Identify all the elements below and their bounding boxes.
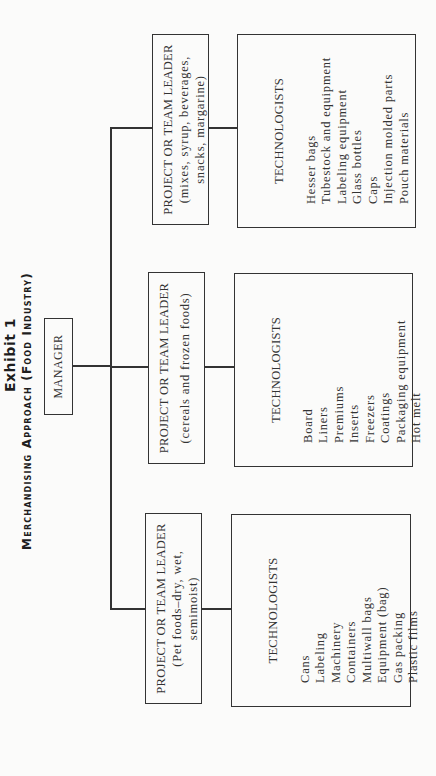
exhibit-title: Exhibit 1 xyxy=(2,255,18,455)
list-item: Freezers xyxy=(363,274,379,443)
list-item: Premiums xyxy=(332,274,348,443)
technologists-list: Hesser bags Tubestock and equipment Labe… xyxy=(304,35,413,227)
manager-label: MANAGER xyxy=(51,334,66,398)
list-item: Equipment (bag) xyxy=(375,515,391,683)
list-item: Multiwall bags xyxy=(360,515,376,683)
team-leader-desc: (Pet foods–dry, wet, xyxy=(169,514,185,703)
technologists-box-cereals: TECHNOLOGISTS Board Liners Premiums Inse… xyxy=(234,273,413,467)
team-leader-box-mixes: PROJECT OR TEAM LEADER (mixes, syrup, be… xyxy=(152,34,209,225)
technologists-box-mixes: TECHNOLOGISTS Hesser bags Tubestock and … xyxy=(237,34,416,228)
connector-trunk xyxy=(110,128,112,610)
list-item: Liners xyxy=(316,274,332,443)
team-leader-role: PROJECT OR TEAM LEADER xyxy=(160,35,176,224)
technologists-header: TECHNOLOGISTS xyxy=(269,274,285,466)
team-leader-role: PROJECT OR TEAM LEADER xyxy=(156,273,172,463)
connector-middle-drop xyxy=(110,367,148,369)
technologists-header: TECHNOLOGISTS xyxy=(272,35,288,227)
list-item: Tubestock and equipment xyxy=(319,35,335,204)
manager-box: MANAGER xyxy=(44,318,73,415)
list-item: Plastic films xyxy=(406,515,422,683)
list-item: Containers xyxy=(344,515,360,683)
team-leader-desc: (cereals and frozen foods) xyxy=(177,273,193,463)
list-item: Board xyxy=(301,274,317,443)
chart-subtitle: Merchandising Approach (Food Industry) xyxy=(20,211,34,611)
connector-manager-down xyxy=(73,366,111,368)
connector-right-tech xyxy=(209,128,237,130)
list-item: Hesser bags xyxy=(304,35,320,204)
team-leader-desc: (mixes, syrup, beverages, xyxy=(176,35,192,224)
list-item: Packaging equipment xyxy=(394,274,410,443)
connector-middle-tech xyxy=(205,367,234,369)
list-item: Inserts xyxy=(347,274,363,443)
list-item: Coatings xyxy=(378,274,394,443)
list-item: Glass bottles xyxy=(350,35,366,204)
team-leader-desc: semimoist) xyxy=(185,514,201,703)
team-leader-box-cereals: PROJECT OR TEAM LEADER (cereals and froz… xyxy=(148,272,205,464)
list-item: Cans xyxy=(298,515,314,683)
list-item: Hot melt xyxy=(409,274,425,443)
team-leader-desc: snacks, margarine) xyxy=(192,35,208,224)
list-item: Labeling equipment xyxy=(335,35,351,204)
list-item: Injection molded parts xyxy=(381,35,397,204)
connector-left-tech xyxy=(202,609,231,611)
connector-right-drop xyxy=(110,128,152,130)
org-chart: Exhibit 1 Merchandising Approach (Food I… xyxy=(0,0,436,776)
list-item: Labeling xyxy=(313,515,329,683)
connector-left-drop xyxy=(110,609,145,611)
list-item: Machinery xyxy=(329,515,345,683)
technologists-list: Cans Labeling Machinery Containers Multi… xyxy=(298,515,422,706)
list-item: Gas packing xyxy=(391,515,407,683)
technologists-list: Board Liners Premiums Inserts Freezers C… xyxy=(301,274,425,466)
technologists-header: TECHNOLOGISTS xyxy=(266,515,282,706)
list-item: Caps xyxy=(366,35,382,204)
list-item: Pouch materials xyxy=(397,35,413,204)
technologists-box-pet-foods: TECHNOLOGISTS Cans Labeling Machinery Co… xyxy=(231,514,411,707)
team-leader-box-pet-foods: PROJECT OR TEAM LEADER (Pet foods–dry, w… xyxy=(145,513,202,704)
team-leader-role: PROJECT OR TEAM LEADER xyxy=(153,514,169,703)
